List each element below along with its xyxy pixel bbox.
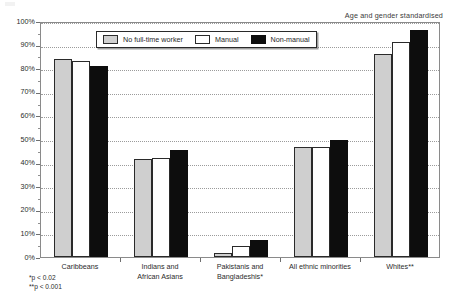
bar (232, 246, 250, 257)
bar (54, 59, 72, 257)
bar (90, 66, 108, 257)
plot-area (40, 22, 440, 258)
legend-item[interactable]: Non-manual (251, 35, 310, 44)
bar (250, 240, 268, 257)
chart-annotation: Age and gender standardised (345, 11, 443, 20)
legend-label: No full-time worker (123, 35, 183, 44)
y-axis-tick-label: 10% (21, 229, 35, 238)
x-axis-label: Whites** (350, 262, 449, 272)
bar-group (294, 23, 348, 257)
legend-label: Non-manual (271, 35, 310, 44)
bar (72, 61, 90, 257)
legend-swatch (251, 35, 266, 44)
footnotes: *p < 0.02**p < 0.001 (29, 273, 62, 291)
y-axis-tick-label: 90% (21, 40, 35, 49)
chart-legend: No full-time workerManualNon-manual (96, 31, 317, 48)
y-axis-tick-label: 0% (25, 253, 35, 262)
y-axis-tick-label: 100% (17, 17, 35, 26)
bar-group (54, 23, 108, 257)
legend-item[interactable]: No full-time worker (103, 35, 183, 44)
x-axis-label-line: Whites** (350, 262, 449, 272)
legend-swatch (103, 35, 118, 44)
y-axis-tick-label: 30% (21, 182, 35, 191)
footnote: *p < 0.02 (29, 273, 62, 282)
y-axis-tick-label: 50% (21, 135, 35, 144)
y-axis: 0%10%20%30%40%50%60%70%80%90%100% (0, 22, 40, 258)
bar (330, 140, 348, 257)
legend-label: Manual (215, 35, 239, 44)
bar (410, 30, 428, 257)
bar-chart: Age and gender standardised 0%10%20%30%4… (0, 0, 449, 305)
y-axis-tick-label: 40% (21, 158, 35, 167)
x-axis-label-line: Bangladeshis* (190, 272, 290, 282)
bar (392, 42, 410, 257)
scan-artifact (5, 2, 15, 6)
bar-group (134, 23, 188, 257)
bar (312, 147, 330, 257)
footnote: **p < 0.001 (29, 282, 62, 291)
bars-layer (41, 23, 439, 257)
legend-swatch (195, 35, 210, 44)
legend-item[interactable]: Manual (195, 35, 239, 44)
x-axis-labels: CaribbeansIndians andAfrican AsiansPakis… (40, 262, 440, 292)
bar (294, 147, 312, 257)
bar (134, 159, 152, 257)
y-axis-tick-label: 20% (21, 205, 35, 214)
y-axis-tick-label: 60% (21, 111, 35, 120)
bar-group (214, 23, 268, 257)
y-axis-tick-label: 80% (21, 64, 35, 73)
bar (170, 150, 188, 257)
y-axis-tick-label: 70% (21, 87, 35, 96)
bar (214, 253, 232, 257)
bar (374, 54, 392, 257)
bar (152, 158, 170, 257)
bar-group (374, 23, 428, 257)
